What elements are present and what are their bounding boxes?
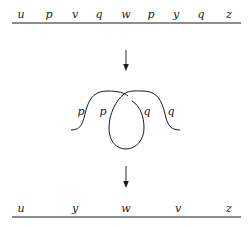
mid-label-2: q [143, 105, 150, 118]
bottom-label-4: z [225, 202, 232, 215]
bottom-label-0: u [17, 202, 24, 215]
mid-label-1: p [99, 105, 106, 118]
loop-curve [71, 91, 180, 149]
top-label-0: u [17, 8, 24, 21]
top-label-2: v [72, 8, 79, 21]
bottom-label-2: w [121, 202, 131, 215]
top-label-3: q [95, 8, 102, 21]
diagram-canvas: u p v q w p y q z p p q q u y w v z [0, 0, 249, 227]
top-label-6: y [172, 8, 180, 21]
bottom-label-3: v [175, 202, 182, 215]
top-label-8: z [225, 8, 232, 21]
top-label-4: w [121, 8, 131, 21]
bottom-label-1: y [71, 202, 79, 215]
down-arrow-icon [123, 50, 129, 71]
top-label-1: p [45, 8, 52, 21]
top-label-7: q [197, 8, 204, 21]
down-arrow-icon [123, 166, 129, 188]
bottom-row: u y w v z [12, 202, 241, 217]
top-row: u p v q w p y q z [12, 8, 241, 23]
mid-label-0: p [77, 105, 84, 118]
top-label-5: p [147, 8, 154, 21]
mid-label-3: q [167, 105, 174, 118]
middle-labels: p p q q [77, 105, 174, 118]
